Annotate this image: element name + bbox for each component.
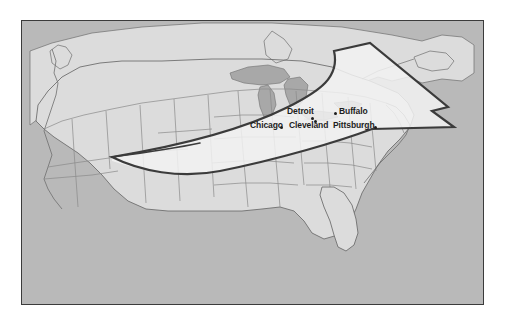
- city-label-chicago: Chicago: [250, 121, 283, 130]
- city-dot-buffalo: [334, 112, 337, 115]
- city-dot-chicago: [280, 126, 283, 129]
- city-label-cleveland: Cleveland: [289, 121, 328, 130]
- city-dot-cleveland: [314, 120, 317, 123]
- city-label-buffalo: Buffalo: [339, 107, 368, 116]
- city-label-detroit: Detroit: [287, 107, 314, 116]
- north-america-map: [22, 21, 482, 303]
- map-illustration-root: Chicago Detroit Cleveland Buffalo Pittsb…: [0, 0, 506, 325]
- city-dot-pittsburgh: [374, 126, 377, 129]
- city-label-pittsburgh: Pittsburgh: [333, 121, 375, 130]
- map-frame: Chicago Detroit Cleveland Buffalo Pittsb…: [21, 20, 484, 305]
